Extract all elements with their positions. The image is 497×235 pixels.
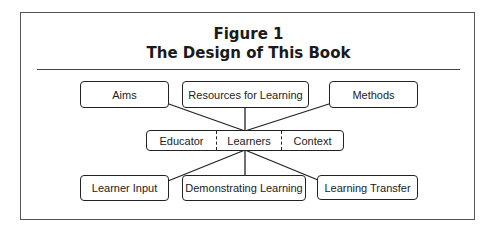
box-resources-for-learning: Resources for Learning [182, 81, 309, 108]
box-learner-input-label: Learner Input [92, 182, 157, 194]
box-methods: Methods [329, 81, 418, 108]
box-aims-label: Aims [112, 89, 136, 101]
cell-educator-label: Educator [159, 135, 203, 147]
box-methods-label: Methods [352, 89, 394, 101]
box-demonstrating-learning: Demonstrating Learning [182, 175, 306, 201]
cell-context: Context [282, 131, 343, 150]
cell-learners-label: Learners [227, 135, 270, 147]
center-box: Educator Learners Context [146, 130, 344, 151]
cell-context-label: Context [294, 135, 332, 147]
cell-learners: Learners [216, 131, 282, 150]
cell-educator: Educator [147, 131, 216, 150]
box-transfer-label: Learning Transfer [324, 182, 410, 194]
box-learner-input: Learner Input [80, 175, 169, 201]
box-demonstrating-label: Demonstrating Learning [185, 182, 302, 194]
box-learning-transfer: Learning Transfer [317, 175, 418, 200]
box-aims: Aims [80, 81, 169, 108]
box-resources-label: Resources for Learning [188, 89, 302, 101]
